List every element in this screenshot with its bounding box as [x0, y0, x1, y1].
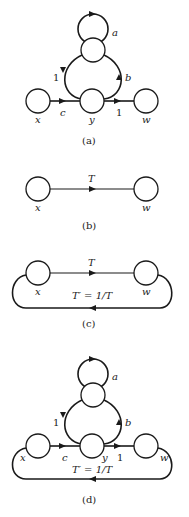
node-x — [26, 89, 50, 113]
caption-a: (a) — [82, 135, 96, 146]
edge-label-1-forward: 1 — [117, 452, 123, 463]
arrow-icon — [89, 186, 96, 192]
edge-label-T-prime: T′ = 1/T — [72, 290, 113, 301]
edge-label-T: T — [88, 173, 96, 184]
edge-label-1-feedback: 1 — [53, 417, 59, 428]
caption-d: (d) — [82, 494, 96, 505]
node-label-x: x — [35, 114, 41, 125]
node-label-x: x — [35, 286, 41, 297]
node-w — [134, 177, 158, 201]
edge-label-c: c — [62, 452, 68, 463]
arrow-icon — [59, 98, 66, 104]
node-x — [26, 177, 50, 201]
node-label-x: x — [20, 452, 26, 463]
edge-label-b: b — [125, 417, 131, 428]
node-x — [26, 261, 50, 285]
panel-d: a 1 b c 1 T′ = 1/T x y w (d) — [13, 356, 172, 505]
feedback-down-edge — [65, 400, 82, 444]
arrow-icon — [89, 305, 96, 311]
arrow-icon — [59, 443, 66, 449]
node-w — [134, 261, 158, 285]
caption-c: (c) — [82, 318, 96, 329]
node-y — [80, 89, 104, 113]
edge-label-a: a — [112, 27, 118, 38]
edge-label-c: c — [60, 107, 66, 118]
edge-label-b: b — [125, 72, 131, 83]
edge-label-a: a — [112, 371, 118, 382]
caption-b: (b) — [82, 220, 96, 231]
arrow-icon — [89, 11, 96, 17]
node-top — [81, 383, 105, 407]
node-w — [134, 434, 158, 458]
node-label-y: y — [88, 114, 95, 125]
node-label-w: w — [142, 286, 151, 297]
node-x — [26, 434, 50, 458]
arrow-icon — [114, 98, 121, 104]
panel-b: T x w (b) — [26, 173, 158, 231]
panel-a: a 1 b c 1 x y w (a) — [26, 11, 158, 146]
arrow-icon — [89, 270, 96, 276]
arrow-icon — [89, 356, 96, 362]
node-top — [81, 38, 105, 62]
node-w — [134, 89, 158, 113]
edge-label-1-feedback: 1 — [53, 72, 59, 83]
feedback-down-edge — [65, 55, 82, 99]
arrow-icon — [89, 476, 96, 482]
edge-label-1-forward: 1 — [116, 107, 122, 118]
node-label-w: w — [142, 202, 151, 213]
arrow-icon — [114, 443, 121, 449]
node-label-w: w — [160, 452, 169, 463]
edge-label-T: T — [88, 257, 96, 268]
node-y — [80, 434, 104, 458]
node-label-x: x — [35, 202, 41, 213]
panel-c: T T′ = 1/T x w (c) — [13, 257, 172, 329]
node-label-w: w — [142, 114, 151, 125]
edge-label-T-prime: T′ = 1/T — [72, 464, 113, 475]
node-label-y: y — [101, 452, 108, 463]
